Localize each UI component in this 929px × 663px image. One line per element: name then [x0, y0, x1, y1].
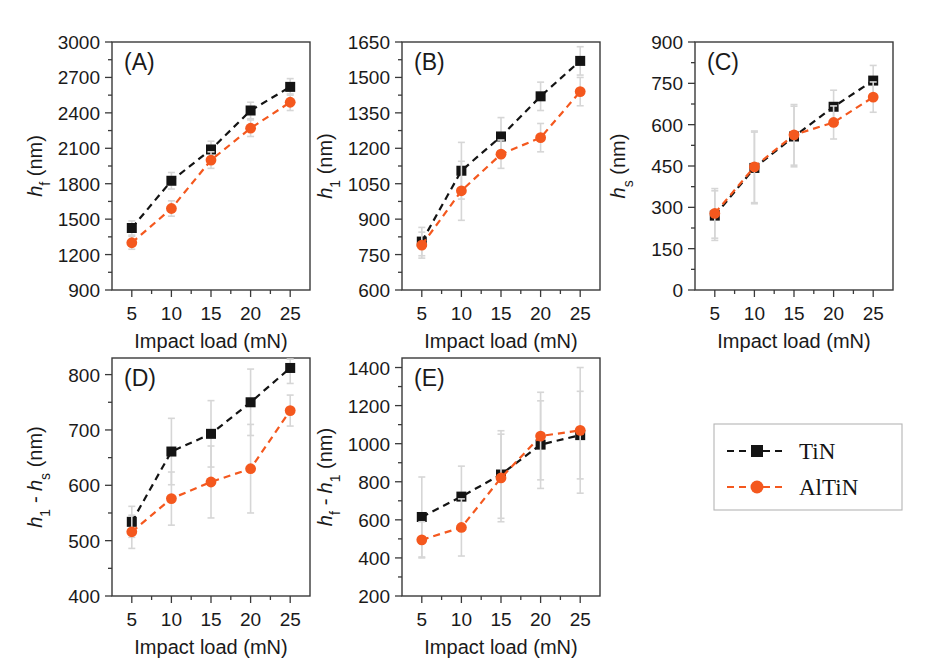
ytick-label: 800 — [68, 365, 100, 386]
ytick-label: 300 — [651, 197, 683, 218]
data-point-marker — [575, 56, 585, 66]
data-point-marker — [206, 429, 216, 439]
data-point-marker — [575, 425, 586, 436]
data-point-marker — [456, 185, 467, 196]
x-axis-title: Impact load (mN) — [424, 636, 577, 658]
xtick-label: 25 — [570, 303, 591, 324]
y-axis-title: hf - h1 (nm) — [314, 428, 343, 526]
panel-letter-e: (E) — [414, 365, 445, 391]
ytick-label: 1200 — [348, 396, 390, 417]
xtick-label: 5 — [710, 303, 721, 324]
svg-text:h1 - hs (nm): h1 - hs (nm) — [24, 426, 53, 528]
legend-marker-square — [751, 445, 763, 457]
x-axis-title: Impact load (mN) — [717, 330, 870, 352]
ytick-label: 150 — [651, 239, 683, 260]
data-point-marker — [126, 237, 137, 248]
ytick-label: 1200 — [348, 138, 390, 159]
ytick-label: 1500 — [348, 67, 390, 88]
ytick-label: 600 — [358, 510, 390, 531]
ytick-label: 1200 — [58, 245, 100, 266]
ytick-label: 450 — [651, 156, 683, 177]
ytick-label: 900 — [68, 280, 100, 301]
ytick-label: 750 — [358, 245, 390, 266]
ytick-label: 900 — [651, 32, 683, 53]
xtick-label: 5 — [417, 609, 428, 630]
data-point-marker — [166, 493, 177, 504]
panel-c: 0150300450600750900510152025Impact load … — [600, 16, 911, 356]
y-axis-title: h1 - hs (nm) — [24, 426, 53, 528]
data-point-marker — [206, 155, 217, 166]
ytick-label: 1800 — [58, 174, 100, 195]
panel-a: 9001200150018002100240027003000510152025… — [17, 16, 328, 356]
ytick-label: 600 — [358, 280, 390, 301]
data-point-marker — [285, 82, 295, 92]
data-point-marker — [285, 363, 295, 373]
data-point-marker — [535, 431, 546, 442]
panel-e: 200400600800100012001400510152025Impact … — [307, 332, 618, 662]
x-axis-title: Impact load (mN) — [134, 636, 287, 658]
data-point-marker — [789, 129, 800, 140]
xtick-label: 15 — [783, 303, 804, 324]
svg-text:hs (nm): hs (nm) — [607, 134, 636, 199]
ytick-label: 2100 — [58, 138, 100, 159]
data-point-marker — [126, 526, 137, 537]
xtick-label: 10 — [161, 303, 182, 324]
xtick-label: 25 — [280, 303, 301, 324]
ytick-label: 700 — [68, 420, 100, 441]
xtick-label: 5 — [417, 303, 428, 324]
data-point-marker — [166, 203, 177, 214]
series-altin — [709, 82, 878, 238]
panel-letter-b: (B) — [414, 49, 445, 75]
data-point-marker — [749, 161, 760, 172]
data-point-marker — [246, 397, 256, 407]
xtick-label: 15 — [200, 609, 221, 630]
series-altin — [126, 94, 295, 249]
ytick-label: 2400 — [58, 103, 100, 124]
panel-letter-d: (D) — [124, 365, 156, 391]
series-line — [132, 102, 290, 243]
legend-label: AlTiN — [799, 475, 859, 500]
data-point-marker — [709, 208, 720, 219]
xtick-label: 10 — [161, 609, 182, 630]
ytick-label: 200 — [358, 586, 390, 607]
ytick-label: 2700 — [58, 67, 100, 88]
legend: TiNAlTiN — [713, 423, 903, 511]
data-point-marker — [245, 123, 256, 134]
ytick-label: 400 — [358, 548, 390, 569]
data-point-marker — [246, 105, 256, 115]
xtick-label: 25 — [280, 609, 301, 630]
panel-letter-c: (C) — [707, 49, 739, 75]
ytick-label: 1350 — [348, 103, 390, 124]
xtick-label: 20 — [823, 303, 844, 324]
data-point-marker — [868, 92, 879, 103]
xtick-label: 15 — [490, 303, 511, 324]
y-axis-title: h1 (nm) — [314, 133, 343, 199]
svg-text:h1 (nm): h1 (nm) — [314, 133, 343, 199]
data-point-marker — [206, 477, 217, 488]
data-point-marker — [496, 473, 507, 484]
data-point-marker — [416, 240, 427, 251]
xtick-label: 25 — [570, 609, 591, 630]
ytick-label: 3000 — [58, 32, 100, 53]
ytick-label: 1500 — [58, 209, 100, 230]
data-point-marker — [285, 97, 296, 108]
ytick-label: 1050 — [348, 174, 390, 195]
data-point-marker — [575, 86, 586, 97]
xtick-label: 25 — [863, 303, 884, 324]
data-point-marker — [285, 405, 296, 416]
panel-letter-a: (A) — [124, 49, 155, 75]
series-altin — [416, 368, 585, 558]
legend-label: TiN — [799, 439, 836, 464]
data-point-marker — [166, 447, 176, 457]
panel-d: 400500600700800510152025Impact load (mN)… — [17, 332, 328, 662]
xtick-label: 5 — [127, 609, 138, 630]
xtick-label: 20 — [240, 303, 261, 324]
panel-b: 60075090010501200135015001650510152025Im… — [307, 16, 618, 356]
xtick-label: 15 — [200, 303, 221, 324]
data-point-marker — [456, 522, 467, 533]
y-axis-title: hf (nm) — [24, 135, 53, 197]
figure-canvas: 9001200150018002100240027003000510152025… — [0, 0, 929, 663]
data-point-marker — [828, 117, 839, 128]
xtick-label: 10 — [451, 609, 472, 630]
ytick-label: 600 — [651, 115, 683, 136]
